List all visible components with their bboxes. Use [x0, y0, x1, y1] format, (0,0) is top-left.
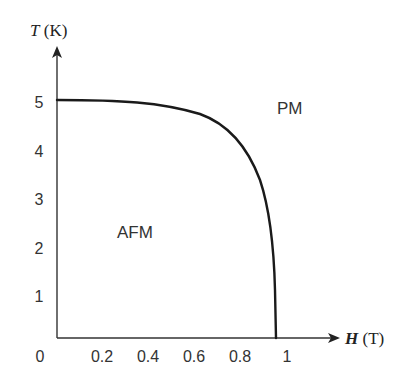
- x-tick-labels: 0.2 0.4 0.6 0.8 1: [91, 348, 292, 365]
- x-tick-label: 0.6: [183, 348, 205, 365]
- origin-label: 0: [36, 348, 45, 365]
- y-tick-labels: 5 4 3 2 1: [35, 94, 44, 305]
- y-tick-label: 1: [35, 288, 44, 305]
- y-axis-title: T (K): [30, 21, 67, 40]
- phase-diagram: T (K) H (T) 0 0.2 0.4 0.6 0.8 1 5 4 3 2 …: [0, 0, 409, 383]
- region-label-afm: AFM: [117, 223, 153, 242]
- y-axis-unit: (K): [39, 21, 67, 40]
- x-tick-label: 0.2: [91, 348, 113, 365]
- x-axis-symbol: H: [344, 329, 359, 348]
- x-axis-unit: (T): [358, 329, 384, 348]
- phase-boundary-curve: [57, 100, 276, 338]
- y-tick-label: 2: [35, 240, 44, 257]
- x-tick-label: 0.8: [229, 348, 251, 365]
- x-tick-label: 0.4: [137, 348, 159, 365]
- x-axis-title: H (T): [344, 329, 384, 348]
- x-tick-label: 1: [283, 348, 292, 365]
- y-tick-label: 5: [35, 94, 44, 111]
- region-label-pm: PM: [277, 99, 303, 118]
- y-tick-label: 3: [35, 191, 44, 208]
- y-tick-label: 4: [35, 143, 44, 160]
